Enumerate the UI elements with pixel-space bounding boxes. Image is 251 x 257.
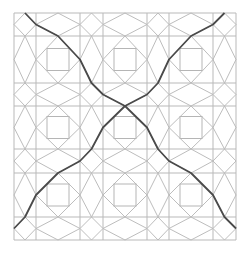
cell-diamond xyxy=(80,13,103,36)
center-squares xyxy=(47,49,202,207)
cell-diamond xyxy=(80,36,103,83)
cell-diamond xyxy=(36,13,80,36)
cell-diamond xyxy=(14,36,36,83)
center-square xyxy=(47,117,69,139)
cell-diamond xyxy=(36,83,80,106)
cell-diamond xyxy=(36,173,80,217)
cell-diamond xyxy=(36,217,80,240)
cell-diamond xyxy=(147,149,169,173)
cell-diamond xyxy=(213,13,236,36)
cell-diamond xyxy=(14,173,36,217)
center-square xyxy=(114,117,136,139)
cell-diamond xyxy=(213,149,236,173)
center-square xyxy=(114,184,136,206)
curve-top-left-to-bottom-right xyxy=(25,13,236,229)
cell-diamond xyxy=(36,106,80,149)
cell-diamond xyxy=(103,36,147,83)
cell-diamond xyxy=(14,217,36,240)
center-square xyxy=(114,49,136,71)
cell-diamond xyxy=(213,106,236,149)
cell-diamond xyxy=(103,106,147,149)
cell-diamond xyxy=(213,173,236,217)
cell-diamond xyxy=(147,13,169,36)
cell-diamond xyxy=(213,36,236,83)
cell-diamond xyxy=(103,83,147,106)
center-square xyxy=(47,49,69,71)
cell-diamond xyxy=(169,149,213,173)
cell-diamond xyxy=(213,217,236,240)
geometric-pattern xyxy=(0,0,251,257)
cell-diamond xyxy=(169,173,213,217)
cell-diamond xyxy=(36,36,80,83)
curve-top-right-to-bottom-left xyxy=(14,13,225,229)
cell-diamond xyxy=(14,149,36,173)
cell-diamond xyxy=(103,13,147,36)
center-square xyxy=(180,49,202,71)
cell-diamond xyxy=(80,106,103,149)
center-square xyxy=(180,117,202,139)
cell-diamond xyxy=(14,13,36,36)
cell-diamond xyxy=(80,83,103,106)
cell-diamond xyxy=(147,217,169,240)
cell-diamond xyxy=(169,83,213,106)
cell-diamond xyxy=(147,106,169,149)
cell-diamond xyxy=(14,83,36,106)
cell-diamond xyxy=(36,149,80,173)
cell-diamond xyxy=(169,106,213,149)
cell-diamond xyxy=(103,149,147,173)
cell-diamond xyxy=(80,173,103,217)
cell-diamond xyxy=(80,149,103,173)
center-square xyxy=(47,184,69,206)
center-square xyxy=(180,184,202,206)
cell-diamond xyxy=(80,217,103,240)
cell-diamond xyxy=(14,106,36,149)
cell-diamond xyxy=(103,173,147,217)
cell-diamond xyxy=(147,173,169,217)
cell-diamond xyxy=(169,13,213,36)
cell-diamond xyxy=(103,217,147,240)
cell-diamond xyxy=(213,83,236,106)
cell-diamond xyxy=(169,36,213,83)
cell-diamond xyxy=(147,36,169,83)
cell-diamond xyxy=(169,217,213,240)
cell-diamond xyxy=(147,83,169,106)
